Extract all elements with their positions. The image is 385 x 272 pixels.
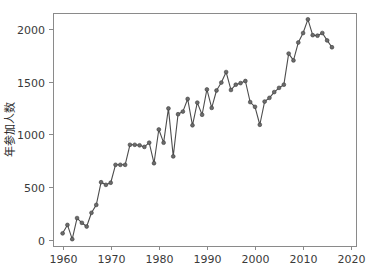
data-point-marker xyxy=(162,141,166,145)
data-point-marker xyxy=(243,79,247,83)
chart-figure: 1960197019801990200020102020 05001000150… xyxy=(0,0,385,272)
x-tick-label: 2020 xyxy=(338,253,366,266)
data-point-marker xyxy=(258,123,262,127)
data-point-marker xyxy=(118,163,122,167)
data-point-marker xyxy=(277,86,281,90)
data-point-marker xyxy=(138,143,142,147)
data-point-marker xyxy=(157,128,161,132)
data-point-marker xyxy=(191,123,195,127)
data-point-marker xyxy=(215,89,219,93)
data-point-marker xyxy=(142,145,146,149)
data-point-marker xyxy=(253,105,257,109)
data-point-marker xyxy=(200,113,204,117)
data-point-marker xyxy=(306,17,310,21)
data-point-marker xyxy=(181,110,185,114)
data-point-marker xyxy=(186,97,190,101)
y-tick-label: 2000 xyxy=(17,24,45,37)
data-point-marker xyxy=(292,59,296,63)
data-point-marker xyxy=(147,141,151,145)
data-point-marker xyxy=(229,88,233,92)
data-point-marker xyxy=(316,34,320,38)
data-point-marker xyxy=(94,203,98,207)
data-point-marker xyxy=(171,154,175,158)
data-point-marker xyxy=(205,88,209,92)
data-point-marker xyxy=(133,143,137,147)
data-point-marker xyxy=(330,45,334,49)
data-point-marker xyxy=(123,163,127,167)
data-point-marker xyxy=(320,31,324,35)
x-tick-label: 1980 xyxy=(146,253,174,266)
data-point-marker xyxy=(325,39,329,43)
data-point-marker xyxy=(75,216,79,220)
data-point-marker xyxy=(104,183,108,187)
line-chart-canvas: 1960197019801990200020102020 05001000150… xyxy=(0,0,385,272)
x-tick-label: 2010 xyxy=(290,253,318,266)
y-tick-label: 500 xyxy=(24,182,45,195)
data-point-marker xyxy=(61,231,65,235)
data-point-marker xyxy=(296,41,300,45)
data-point-marker xyxy=(85,225,89,229)
x-tick-label: 1960 xyxy=(50,253,78,266)
data-point-marker xyxy=(90,211,94,215)
data-point-marker xyxy=(152,161,156,165)
y-axis-title: 年参加人数 xyxy=(3,102,17,157)
data-point-marker xyxy=(219,81,223,85)
data-point-marker xyxy=(210,106,214,110)
data-point-marker xyxy=(128,143,132,147)
data-point-marker xyxy=(80,221,84,225)
data-point-marker xyxy=(114,163,118,167)
data-point-marker xyxy=(66,223,70,227)
data-point-marker xyxy=(311,33,315,37)
x-tick-label: 1990 xyxy=(194,253,222,266)
data-point-marker xyxy=(248,100,252,104)
y-tick-label: 1000 xyxy=(17,129,45,142)
y-tick-label: 0 xyxy=(38,235,45,248)
data-point-marker xyxy=(301,31,305,35)
data-point-marker xyxy=(99,180,103,184)
data-point-marker xyxy=(239,81,243,85)
y-tick-label: 1500 xyxy=(17,77,45,90)
x-tick-label: 1970 xyxy=(98,253,126,266)
data-point-marker xyxy=(263,100,267,104)
data-point-marker xyxy=(167,107,171,111)
data-point-marker xyxy=(268,96,272,100)
data-point-marker xyxy=(287,52,291,56)
data-point-marker xyxy=(272,90,276,94)
data-point-marker xyxy=(109,181,113,185)
data-point-marker xyxy=(176,112,180,116)
data-point-marker xyxy=(195,101,199,105)
data-point-marker xyxy=(70,237,74,241)
data-point-marker xyxy=(224,70,228,74)
data-point-marker xyxy=(282,83,286,87)
x-tick-label: 2000 xyxy=(242,253,270,266)
data-point-marker xyxy=(234,83,238,87)
